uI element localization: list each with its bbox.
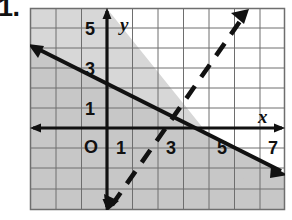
origin-label: O [84,137,98,157]
x-tick-label-1: 1 [116,138,126,158]
x-tick-label-3: 3 [166,138,176,158]
y-tick-label-1: 1 [85,99,95,119]
x-tick-label-7: 7 [268,138,278,158]
y-axis-label: y [118,14,129,35]
x-axis-label: x [257,106,268,127]
y-tick-label-5: 5 [85,19,95,39]
graph-svg: y x O 1 3 5 7 1 3 5 [0,0,292,220]
dashed-helper-4 [30,0,285,8]
y-tick-label-3: 3 [85,59,95,79]
x-tick-label-5: 5 [217,138,227,158]
coordinate-graph-figure: y x O 1 3 5 7 1 3 5 [0,0,292,220]
